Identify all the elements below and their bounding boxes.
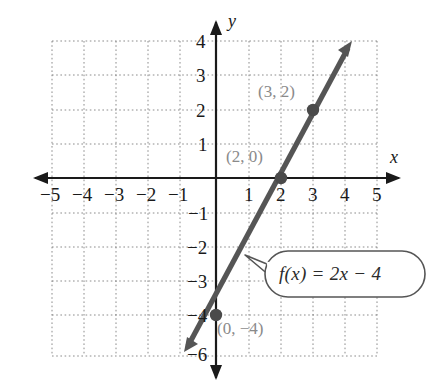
x-tick-1: 1 [244,185,254,204]
graph-figure: 4 3 2 1 −1 −2 −3 −4 −6 −5 −4 −3 −2 −1 1 … [0,0,429,391]
x-tick-2: 2 [276,185,286,204]
x-axis-label: x [390,148,398,166]
coordinate-plane [0,0,429,391]
x-tick-4: 4 [340,185,350,204]
x-tick-neg1: −1 [168,185,188,204]
x-tick-neg3: −3 [104,185,124,204]
y-axis-bottom-arrow [210,365,222,380]
x-tick-3: 3 [308,185,318,204]
y-tick-3: 3 [196,66,206,85]
y-tick-neg4: −4 [187,306,207,325]
x-tick-neg5: −5 [40,185,60,204]
x-tick-neg2: −2 [136,185,156,204]
label-point-0-neg4: (0, −4) [217,320,263,337]
label-point-2-0: (2, 0) [226,148,263,165]
y-tick-4: 4 [196,32,206,51]
point-2-0 [275,172,287,184]
x-axis-right-arrow [386,172,401,184]
y-tick-neg6: −6 [187,345,207,364]
y-tick-neg3: −3 [187,272,207,291]
label-point-3-2: (3, 2) [258,83,295,100]
x-tick-5: 5 [372,185,382,204]
y-tick-neg1: −1 [188,204,208,223]
function-line-up-arrow [338,41,352,57]
equation-text: f(x) = 2x − 4 [279,264,381,283]
x-tick-neg4: −4 [72,185,92,204]
y-tick-neg2: −2 [187,238,207,257]
x-axis-left-arrow [33,172,48,184]
point-3-2 [307,104,319,116]
y-axis-top-arrow [210,20,222,35]
y-axis-label: y [228,12,236,30]
y-tick-1: 1 [198,135,208,154]
y-tick-2: 2 [196,101,206,120]
